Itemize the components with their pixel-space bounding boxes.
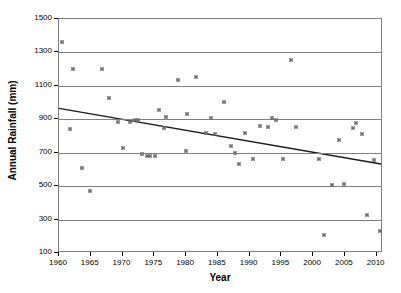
data-point: [233, 151, 237, 155]
data-point: [116, 120, 120, 124]
y-tick-mark-700: [54, 152, 58, 153]
y-tick-mark-500: [54, 185, 58, 186]
x-tick-label-2010: 2010: [367, 259, 385, 267]
data-point: [194, 75, 198, 79]
gridline-y-1300: [59, 52, 381, 53]
x-tick-mark-1985: [217, 252, 218, 256]
data-point: [204, 131, 208, 135]
gridline-y-1100: [59, 86, 381, 87]
gridline-y-900: [59, 119, 381, 120]
y-tick-mark-1100: [54, 85, 58, 86]
data-point: [153, 154, 157, 158]
data-point: [336, 138, 340, 142]
y-tick-label-1300: 1300: [34, 47, 52, 55]
x-tick-label-1995: 1995: [271, 259, 289, 267]
data-point: [88, 189, 92, 193]
y-tick-label-1500: 1500: [34, 14, 52, 22]
y-tick-label-100: 100: [39, 248, 52, 256]
x-tick-mark-1960: [58, 252, 59, 256]
x-tick-label-1975: 1975: [144, 259, 162, 267]
x-tick-label-1990: 1990: [240, 259, 258, 267]
data-point: [289, 58, 293, 62]
x-tick-mark-1965: [90, 252, 91, 256]
gridline-y-300: [59, 220, 381, 221]
x-tick-mark-1975: [153, 252, 154, 256]
data-point: [140, 151, 144, 155]
x-tick-mark-1970: [122, 252, 123, 256]
data-point: [221, 100, 225, 104]
x-tick-mark-1990: [249, 252, 250, 256]
data-point: [372, 158, 376, 162]
x-tick-mark-2005: [344, 252, 345, 256]
y-tick-label-300: 300: [39, 215, 52, 223]
data-point: [243, 131, 247, 135]
gridline-y-700: [59, 153, 381, 154]
x-tick-label-1960: 1960: [49, 259, 67, 267]
x-axis-title: Year: [58, 272, 382, 283]
y-tick-label-1100: 1100: [35, 81, 52, 89]
data-point: [120, 146, 124, 150]
y-tick-mark-900: [54, 118, 58, 119]
data-point: [322, 233, 326, 237]
data-point: [365, 212, 369, 216]
data-point: [251, 157, 255, 161]
rainfall-scatter-chart: Annual Rainfall (mm) 1003005007009001100…: [0, 0, 401, 293]
data-point: [378, 229, 382, 233]
data-point: [360, 132, 364, 136]
data-point: [80, 166, 84, 170]
x-tick-label-1985: 1985: [208, 259, 226, 267]
data-point: [266, 125, 270, 129]
data-point: [258, 124, 262, 128]
data-point: [71, 67, 75, 71]
data-point: [274, 118, 278, 122]
y-tick-label-900: 900: [39, 114, 52, 122]
plot-area: [58, 18, 382, 252]
x-tick-label-2000: 2000: [303, 259, 321, 267]
data-point: [228, 144, 232, 148]
data-point: [184, 149, 188, 153]
x-tick-label-2005: 2005: [335, 259, 353, 267]
data-point: [329, 183, 333, 187]
data-point: [99, 67, 103, 71]
x-tick-mark-2010: [376, 252, 377, 256]
y-tick-mark-1300: [54, 51, 58, 52]
data-point: [157, 108, 161, 112]
data-point: [294, 125, 298, 129]
y-axis-title: Annual Rainfall (mm): [0, 0, 24, 260]
y-axis-title-text: Annual Rainfall (mm): [7, 80, 18, 180]
y-tick-label-500: 500: [39, 181, 52, 189]
y-tick-mark-300: [54, 219, 58, 220]
data-point: [164, 115, 168, 119]
x-tick-label-1980: 1980: [176, 259, 194, 267]
data-point: [107, 95, 111, 99]
trend-line: [59, 19, 381, 251]
data-point: [209, 116, 213, 120]
data-point: [176, 78, 180, 82]
data-point: [59, 40, 63, 44]
x-tick-label-1965: 1965: [81, 259, 99, 267]
data-point: [350, 126, 354, 130]
x-tick-mark-1995: [280, 252, 281, 256]
x-axis-tick-labels: 1960196519701975198019851990199520002005…: [0, 256, 401, 270]
y-axis-tick-labels: 100300500700900110013001500: [24, 0, 56, 293]
x-tick-mark-2000: [312, 252, 313, 256]
y-tick-label-700: 700: [39, 148, 52, 156]
data-point: [136, 118, 140, 122]
data-point: [280, 157, 284, 161]
x-tick-mark-1980: [185, 252, 186, 256]
y-tick-mark-1500: [54, 18, 58, 19]
x-tick-label-1970: 1970: [113, 259, 131, 267]
data-point: [127, 120, 131, 124]
